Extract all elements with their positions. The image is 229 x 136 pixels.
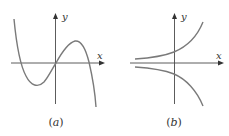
lower-exponential-curve	[135, 67, 203, 106]
y-axis-arrow-icon	[172, 13, 177, 19]
y-axis-arrow-icon	[53, 13, 58, 19]
panel-b: y x (b)	[130, 11, 224, 129]
figure-canvas: y x (a) y x (b)	[0, 0, 229, 136]
caption-a: (a)	[48, 116, 63, 129]
y-axis-label-b: y	[180, 11, 187, 22]
y-axis-label-a: y	[61, 11, 68, 22]
caption-b: (b)	[166, 116, 182, 129]
x-axis-arrow-icon	[99, 61, 105, 66]
upper-exponential-curve	[135, 22, 203, 59]
x-axis-label-a: x	[97, 50, 103, 61]
panel-a: y x (a)	[11, 11, 105, 129]
x-axis-arrow-icon	[218, 61, 224, 66]
x-axis-label-b: x	[216, 50, 222, 61]
